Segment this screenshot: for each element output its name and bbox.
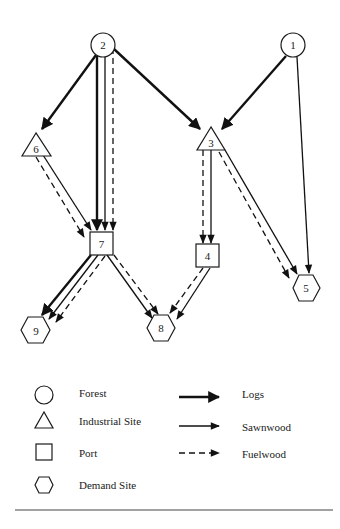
node-label: 1 (290, 39, 296, 51)
edge-4-8-fuelwood (170, 268, 203, 313)
node-5: 5 (293, 275, 320, 301)
edge-2-6-logs (42, 55, 96, 129)
edge-2-3-logs (114, 49, 200, 129)
edge-7-9-logs (42, 255, 91, 315)
node-label: 8 (158, 322, 164, 334)
node-4: 4 (196, 244, 219, 267)
edge-6-7-fuelwood (36, 157, 84, 237)
legend-label-fuelwood: Fuelwood (242, 448, 287, 460)
legend-demand-site-icon (35, 477, 53, 493)
legend-label-demand-site: Demand Site (79, 479, 136, 491)
node-label: 6 (33, 143, 39, 155)
legend-label-industrial-site: Industrial Site (79, 415, 141, 427)
legend-forest-icon (35, 386, 53, 404)
node-label: 2 (100, 39, 106, 51)
node-label: 9 (33, 325, 39, 337)
legend-port-icon (36, 444, 52, 460)
edge-4-8-sawnwood (177, 268, 210, 319)
legend-label-port: Port (79, 447, 97, 459)
node-8: 8 (147, 315, 175, 341)
legend-industrial-site-icon (35, 412, 53, 428)
edge-1-5-sawnwood (297, 57, 309, 273)
node-3: 3 (197, 127, 225, 150)
edge-6-7-sawnwood (43, 155, 91, 230)
legend: Forest Industrial Site Port Demand Site … (35, 386, 291, 493)
network-diagram: 1 2 3 4 5 6 7 8 9 Forest Industrial Site (0, 0, 340, 529)
node-label: 5 (303, 282, 309, 294)
edge-1-3-logs (222, 56, 286, 129)
node-7: 7 (90, 232, 113, 255)
edge-7-8-fuelwood (114, 255, 158, 314)
node-label: 7 (99, 238, 105, 250)
edge-3-5-sawnwood (225, 150, 297, 274)
node-9: 9 (21, 317, 50, 343)
legend-label-sawnwood: Sawnwood (242, 421, 291, 433)
legend-label-logs: Logs (242, 388, 264, 400)
node-1: 1 (281, 33, 305, 57)
edge-3-5-fuelwood (219, 152, 289, 278)
legend-label-forest: Forest (79, 387, 107, 399)
edge-7-9-sawnwood (49, 255, 98, 319)
node-6: 6 (22, 133, 51, 156)
node-2: 2 (91, 33, 115, 57)
edge-7-8-sawnwood (107, 255, 152, 318)
node-label: 3 (208, 137, 214, 149)
node-label: 4 (205, 250, 211, 262)
edges (36, 48, 309, 322)
